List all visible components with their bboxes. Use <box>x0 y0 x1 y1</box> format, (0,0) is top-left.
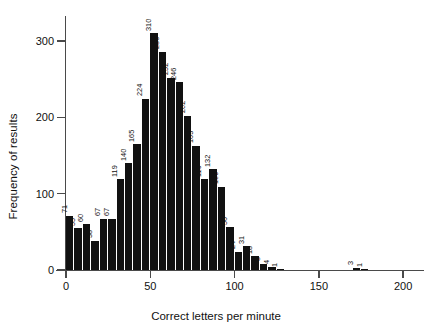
bar-value-label: 18 <box>245 246 254 254</box>
histogram-chart: Frequency of results 0100200300 05010015… <box>0 0 437 333</box>
histogram-bar <box>277 269 285 270</box>
y-tick-mark <box>57 269 65 270</box>
bar-value-label: 31 <box>237 236 246 244</box>
y-tick-label: 0 <box>8 264 54 276</box>
x-tick-mark <box>150 271 151 278</box>
x-tick-mark <box>402 271 403 278</box>
bar-value-label: 67 <box>102 208 111 216</box>
histogram-bar <box>167 78 175 270</box>
y-tick-mark <box>57 117 65 118</box>
bar-value-label: 38 <box>85 230 94 238</box>
x-axis-line <box>56 270 424 271</box>
bar-value-label: 119 <box>110 165 119 177</box>
y-tick-mark <box>57 40 65 41</box>
histogram-bar <box>235 252 243 270</box>
bar-value-label: 67 <box>93 208 102 216</box>
histogram-bar <box>74 228 82 270</box>
x-tick-label: 0 <box>46 280 86 292</box>
bar-value-label: 60 <box>76 213 85 221</box>
x-tick-mark <box>318 271 319 278</box>
histogram-bar <box>361 269 369 270</box>
histogram-bar <box>192 146 200 270</box>
bar-value-label: 165 <box>127 129 136 141</box>
y-tick-label: 300 <box>8 35 54 47</box>
bar-value-label: 202 <box>178 101 187 113</box>
x-tick-label: 150 <box>299 280 339 292</box>
bar-value-label: 132 <box>203 154 212 166</box>
histogram-bar <box>201 179 209 270</box>
bar-value-label: 3 <box>346 261 355 265</box>
y-tick-mark <box>57 193 65 194</box>
x-tick-mark <box>65 271 66 278</box>
histogram-bar <box>117 179 125 270</box>
x-axis-title: Correct letters per minute <box>66 310 366 322</box>
histogram-bar <box>125 163 133 270</box>
bar-value-label: 1 <box>355 263 364 267</box>
y-tick-label: 100 <box>8 188 54 200</box>
y-axis-title: Frequency of results <box>0 0 26 333</box>
y-tick-label: 200 <box>8 111 54 123</box>
x-tick-label: 100 <box>215 280 255 292</box>
histogram-bar <box>353 268 361 270</box>
bar-value-label: 140 <box>119 148 128 160</box>
histogram-bar <box>209 169 217 270</box>
bar-value-label: 71 <box>60 205 69 213</box>
bar-value-label: 163 <box>186 131 195 143</box>
bar-value-label: 224 <box>135 84 144 96</box>
histogram-bar <box>133 144 141 270</box>
histogram-bar <box>91 241 99 270</box>
bar-value-label: 24 <box>228 241 237 249</box>
bar-value-label: 1 <box>270 263 279 267</box>
bar-value-label: 56 <box>220 217 229 225</box>
histogram-bar <box>159 52 167 270</box>
histogram-bar <box>142 99 150 270</box>
bar-value-label: 109 <box>211 172 220 184</box>
histogram-bar <box>108 219 116 270</box>
bar-value-label: 246 <box>169 67 178 79</box>
histogram-bar <box>150 33 158 270</box>
histogram-bar <box>100 219 108 270</box>
bar-value-label: 286 <box>152 37 161 49</box>
histogram-bar <box>218 187 226 270</box>
bar-value-label: 310 <box>144 18 153 30</box>
histogram-bar <box>268 267 276 270</box>
plot-area: 7155603867671191401652243102862522462021… <box>66 18 420 270</box>
x-tick-label: 50 <box>130 280 170 292</box>
x-tick-mark <box>234 271 235 278</box>
x-tick-label: 200 <box>383 280 423 292</box>
histogram-bar <box>260 264 268 270</box>
